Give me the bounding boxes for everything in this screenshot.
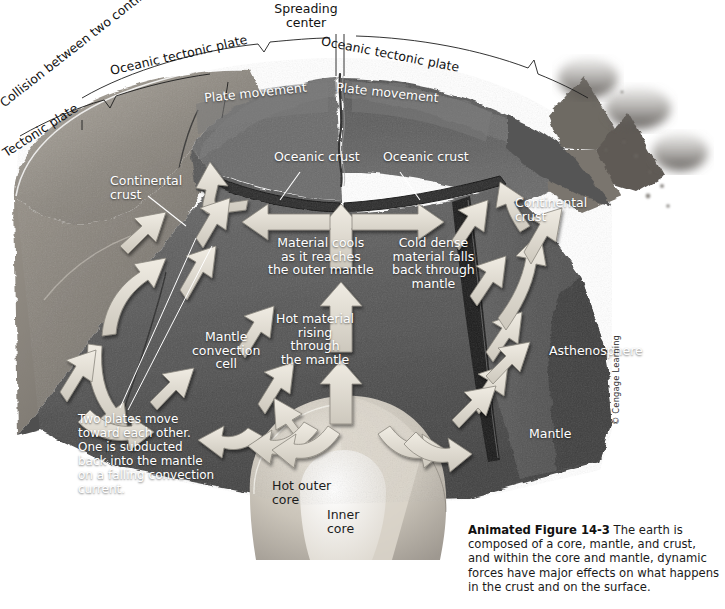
label-asthenosphere: Asthenosphere (549, 344, 643, 358)
label-cold-dense-material: Cold dense material falls back through m… (392, 236, 475, 290)
figure-caption: Animated Figure 14-3 The earth is compos… (468, 523, 720, 594)
label-mantle: Mantle (529, 427, 571, 441)
label-two-plates-move: Two plates move toward each other. One i… (78, 412, 214, 496)
ash-plume-3 (652, 133, 708, 171)
copyright-credit: © Cengage Learning (611, 335, 621, 425)
label-hot-outer-core: Hot outer core (272, 479, 331, 506)
label-oceanic-crust-right: Oceanic crust (383, 150, 469, 164)
figure-number: Animated Figure 14-3 (468, 523, 610, 537)
ash-plume-1 (558, 58, 618, 98)
label-inner-core: Inner core (327, 508, 359, 535)
label-mantle-convection-cell: Mantle convection cell (192, 330, 260, 371)
label-hot-material-rising: Hot material rising through the mantle (276, 312, 354, 366)
ash-plume-2 (605, 87, 671, 129)
label-material-cools: Material cools as it reaches the outer m… (268, 236, 374, 277)
label-continental-crust-right: Continental crust (515, 196, 587, 223)
label-continental-crust-left: Continental crust (110, 174, 182, 201)
label-spreading-center: Spreading center (262, 2, 350, 30)
figure-container: Collision between two continents Tectoni… (0, 0, 725, 609)
label-oceanic-crust-left: Oceanic crust (274, 150, 360, 164)
